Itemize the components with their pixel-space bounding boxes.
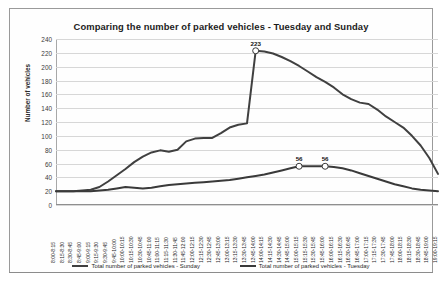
x-axis-tick-label: 19:00-19:15 (432, 236, 438, 263)
x-axis-tick-label: 18:00-18:15 (397, 236, 403, 263)
x-axis-tick-label: 14:30-14:45 (276, 236, 282, 263)
x-axis-tick-label: 13:30-13:45 (241, 236, 247, 263)
x-axis-tick-label: 17:45-18:00 (389, 236, 395, 263)
x-axis-tick-label: 17:00-17:15 (363, 236, 369, 263)
x-axis-tick-label: 18:45-19:00 (423, 236, 429, 263)
x-axis-tick-label: 8:00-8:15 (50, 242, 56, 263)
x-axis-tick-label: 15:00-15:15 (293, 236, 299, 263)
x-axis-tick-label: 18:15-18:30 (406, 236, 412, 263)
x-axis-tick-label: 8:30-8:45 (67, 242, 73, 263)
x-axis-tick-label: 14:45-15:00 (284, 236, 290, 263)
x-axis-tick-label: 8:45-9:00 (76, 242, 82, 263)
x-axis-tick-label: 10:30-10:45 (137, 236, 143, 263)
x-axis-tick-label: 11:00-11:15 (154, 237, 160, 263)
y-axis-tick-label: 80 (45, 146, 52, 153)
x-axis-tick-label: 11:45-12:00 (180, 237, 186, 263)
x-axis-tick-label: 10:00-10:15 (119, 236, 125, 263)
x-axis-tick-label: 12:45-13:00 (215, 236, 221, 263)
x-axis-tick-label: 9:45-10:00 (111, 239, 117, 263)
x-axis-tick-label: 12:30-12:45 (206, 236, 212, 263)
y-axis-title: Number of vehicles (24, 64, 31, 122)
x-axis-tick-label: 12:00-12:15 (189, 236, 195, 263)
chart-frame: Comparing the number of parked vehicles … (9, 8, 433, 273)
data-point-marker (296, 163, 302, 169)
y-axis-tick-label: 120 (41, 119, 52, 126)
x-axis-tick-label: 15:15-15:30 (302, 236, 308, 263)
x-axis-tick-label: 16:30-16:45 (345, 236, 351, 263)
gridline (56, 205, 438, 206)
y-axis-tick-label: 0 (48, 202, 52, 209)
x-axis-tick-label: 9:30-9:45 (102, 242, 108, 263)
x-axis-tick-label: 17:30-17:45 (380, 236, 386, 263)
y-axis-tick-label: 100 (41, 132, 52, 139)
data-point-marker (253, 48, 259, 54)
bottom-rule (9, 272, 433, 273)
x-axis-tick-label: 16:15-16:30 (337, 236, 343, 263)
x-axis-tick-label: 11:15-11:30 (163, 237, 169, 263)
legend-item[interactable]: Total number of parked vehicles - Sunday (72, 263, 199, 269)
x-axis-tick-label: 9:00-9:15 (85, 242, 91, 263)
x-axis-tick-label: 10:15-10:30 (128, 236, 134, 263)
plot-area: 020406080100120140160180200220240 223565… (56, 39, 438, 205)
legend-label: Total number of parked vehicles - Tuesda… (259, 263, 370, 269)
legend-swatch (240, 265, 256, 267)
x-axis-tick-label: 10:45-11:00 (146, 237, 152, 263)
y-axis-tick-label: 60 (45, 160, 52, 167)
data-point-label: 56 (296, 155, 303, 162)
x-axis-tick-label: 14:00-14:15 (258, 236, 264, 263)
x-axis-tick-label: 13:00-13:15 (224, 236, 230, 263)
y-axis-tick-label: 20 (45, 188, 52, 195)
legend-item[interactable]: Total number of parked vehicles - Tuesda… (240, 263, 370, 269)
series-lines (56, 39, 438, 205)
x-axis-tick-label: 11:30-11:45 (172, 237, 178, 263)
x-axis-tick-label: 15:30-15:45 (310, 236, 316, 263)
x-axis-tick-label: 16:00-16:15 (328, 236, 334, 263)
data-point-marker (322, 163, 328, 169)
legend-label: Total number of parked vehicles - Sunday (91, 263, 199, 269)
y-axis-tick-label: 200 (41, 63, 52, 70)
x-axis-tick-label: 17:15-17:30 (371, 236, 377, 263)
chart-legend: Total number of parked vehicles - Sunday… (10, 263, 432, 269)
y-axis-tick-label: 40 (45, 174, 52, 181)
x-axis-tick-label: 13:15-13:30 (232, 236, 238, 263)
data-point-label: 223 (251, 40, 261, 47)
y-axis-tick-label: 160 (41, 91, 52, 98)
series-line (56, 51, 438, 191)
x-axis-tick-label: 16:45-17:00 (354, 236, 360, 263)
y-axis-tick-label: 180 (41, 77, 52, 84)
x-axis-tick-label: 8:15-8:30 (59, 242, 65, 263)
y-axis-tick-label: 140 (41, 105, 52, 112)
x-axis-tick-label: 12:15-12:30 (198, 236, 204, 263)
y-axis-tick-label: 240 (41, 36, 52, 43)
chart-page: Comparing the number of parked vehicles … (0, 0, 442, 281)
data-point-label: 56 (322, 155, 329, 162)
chart-title: Comparing the number of parked vehicles … (10, 21, 432, 32)
y-axis-tick-label: 220 (41, 49, 52, 56)
x-axis-tick-label: 15:45-16:00 (319, 236, 325, 263)
x-axis-tick-label: 13:45-14:00 (250, 236, 256, 263)
x-axis-tick-label: 14:15-14:30 (267, 236, 273, 263)
x-axis-ticks: 8:00-8:158:15-8:308:30-8:458:45-9:009:00… (56, 207, 438, 263)
x-axis-tick-label: 9:15-9:30 (93, 242, 99, 263)
legend-swatch (72, 265, 88, 267)
x-axis-tick-label: 18:30-18:45 (415, 236, 421, 263)
